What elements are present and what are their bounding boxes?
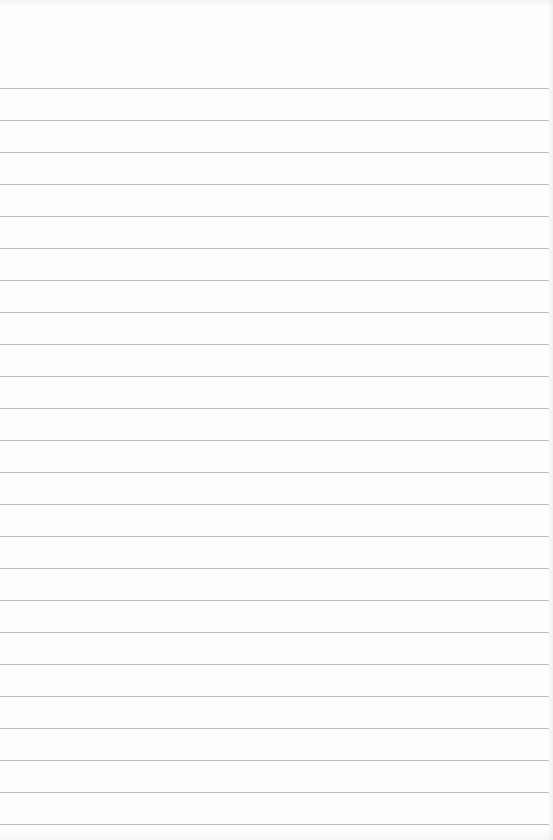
ruled-line <box>0 440 549 441</box>
ruled-line <box>0 280 549 281</box>
ruled-line <box>0 536 549 537</box>
ruled-line <box>0 216 549 217</box>
lined-paper-sheet <box>0 0 553 840</box>
ruled-line <box>0 600 549 601</box>
ruled-line <box>0 376 549 377</box>
right-edge-shadow <box>547 0 553 840</box>
ruled-line <box>0 120 549 121</box>
ruled-line <box>0 472 549 473</box>
ruled-line <box>0 792 549 793</box>
ruled-line <box>0 344 549 345</box>
ruled-line <box>0 504 549 505</box>
bottom-edge-bleed-through <box>0 830 553 840</box>
ruled-line <box>0 728 549 729</box>
ruled-line <box>0 408 549 409</box>
ruled-line <box>0 248 549 249</box>
ruled-line <box>0 184 549 185</box>
top-edge-bleed-through <box>0 0 553 8</box>
ruled-line <box>0 88 549 89</box>
ruled-line <box>0 696 549 697</box>
ruled-line <box>0 664 549 665</box>
ruled-line <box>0 568 549 569</box>
ruled-line <box>0 632 549 633</box>
ruled-line <box>0 312 549 313</box>
ruled-line <box>0 152 549 153</box>
ruled-line <box>0 824 549 825</box>
ruled-line <box>0 760 549 761</box>
